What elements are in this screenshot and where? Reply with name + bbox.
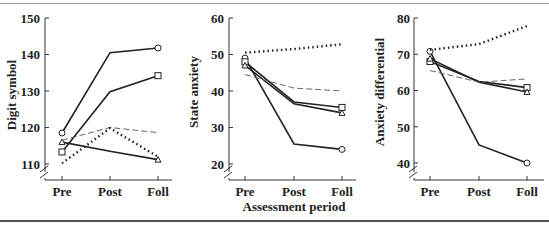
y-tick: 70 xyxy=(397,47,410,62)
y-tick: 40 xyxy=(397,156,410,171)
x-tick: Pre xyxy=(235,184,254,199)
y-tick: 60 xyxy=(397,83,410,98)
circle-marker xyxy=(524,160,530,166)
axis-break-mark xyxy=(40,172,48,178)
x-tick: Pre xyxy=(420,184,439,199)
x-tick: Foll xyxy=(516,184,538,199)
series-line-solid-square xyxy=(62,76,158,152)
square-marker xyxy=(59,149,65,155)
circle-marker xyxy=(59,130,65,136)
plot-area xyxy=(40,18,172,180)
axis-break-mark xyxy=(40,166,48,172)
y-tick: 20 xyxy=(211,157,224,172)
circle-marker xyxy=(155,45,161,51)
y-tick: 80 xyxy=(397,11,410,26)
y-tick: 130 xyxy=(21,84,41,99)
chart-figure: Digit symbol 150 140 130 120 110 Pre Pos… xyxy=(0,0,549,226)
y-tick: 50 xyxy=(211,47,224,62)
x-tick: Post xyxy=(282,184,307,199)
x-tick: Foll xyxy=(331,184,353,199)
panel-anxiety-differential: Anxiety differential 80 70 60 50 40 Pre … xyxy=(372,11,538,199)
y-axis-label: State anxiety xyxy=(186,56,201,128)
axis-break-mark xyxy=(409,166,417,172)
plot-area xyxy=(409,18,544,180)
x-axis-label: Assessment period xyxy=(243,199,347,214)
series-line-solid-circle xyxy=(62,48,158,133)
axis-break-mark xyxy=(224,166,232,172)
y-tick: 40 xyxy=(211,84,224,99)
x-tick: Post xyxy=(98,184,123,199)
y-axis-label: Digit symbol xyxy=(4,59,19,130)
square-marker xyxy=(155,73,161,79)
y-tick: 60 xyxy=(211,11,224,26)
axis-break-mark xyxy=(224,172,232,178)
y-tick: 120 xyxy=(21,120,41,135)
series-line-solid-triangle xyxy=(62,142,158,160)
plot-area xyxy=(224,18,356,180)
panel-digit-symbol: Digit symbol 150 140 130 120 110 Pre Pos… xyxy=(4,11,169,199)
x-tick: Post xyxy=(467,184,492,199)
y-tick: 140 xyxy=(21,47,41,62)
y-tick: 110 xyxy=(21,157,40,172)
series-line-dotted xyxy=(245,44,342,52)
circle-marker xyxy=(339,146,345,152)
y-tick: 30 xyxy=(211,120,224,135)
series-line-solid-triangle xyxy=(430,59,527,92)
panel-state-anxiety: State anxiety 60 50 40 30 20 Pre Post Fo… xyxy=(186,11,353,214)
axis-break-mark xyxy=(409,172,417,178)
y-tick: 50 xyxy=(397,120,410,135)
series-line-dotted xyxy=(430,26,527,50)
x-tick: Pre xyxy=(52,184,71,199)
x-tick: Foll xyxy=(147,184,169,199)
y-tick: 150 xyxy=(21,11,41,26)
y-axis-label: Anxiety differential xyxy=(372,37,387,146)
